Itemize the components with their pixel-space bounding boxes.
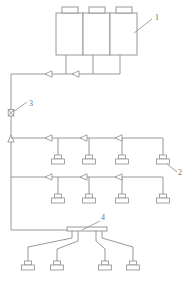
reference-label-3: 3	[29, 100, 33, 108]
flow-arrow-row2-3	[115, 174, 122, 180]
schematic-drawing	[0, 0, 190, 281]
nozzle-row2-item4	[157, 194, 170, 203]
nozzle-row1-item2	[83, 155, 96, 164]
flow-arrow-header-1	[45, 71, 52, 77]
riser-valve-upper	[8, 110, 14, 117]
leader-line-3	[13, 102, 27, 112]
storage-vessel-bank	[56, 7, 137, 55]
nozzle-row2-item1	[52, 194, 65, 203]
figure-canvas: 1 3 2 4	[0, 0, 190, 281]
vessel-2	[83, 7, 110, 55]
flow-arrow-row1-2	[80, 135, 87, 141]
flow-arrow-row1-3	[115, 135, 122, 141]
manifold-drop-2	[57, 231, 78, 261]
nozzle-bottom-item4	[127, 261, 140, 270]
vessel-1	[56, 7, 83, 55]
main-riser	[11, 74, 67, 230]
flow-arrow-row1-1	[45, 135, 52, 141]
flow-arrow-row2-2	[80, 174, 87, 180]
vessel-3	[110, 7, 137, 55]
flow-arrow-row2-1	[45, 174, 52, 180]
riser-valve-lower	[8, 135, 14, 142]
manifold-drop-4	[102, 231, 133, 261]
nozzle-row1-item3	[116, 155, 129, 164]
nozzle-bottom-item2	[51, 261, 64, 270]
flow-arrow-header-2	[72, 71, 79, 77]
vessel-header-pipe	[11, 55, 120, 74]
nozzle-row2-item2	[83, 194, 96, 203]
nozzle-row1-item1	[52, 155, 65, 164]
manifold-drop-3	[96, 231, 105, 261]
reference-label-4: 4	[101, 214, 105, 222]
nozzle-bottom-item3	[99, 261, 112, 270]
nozzle-row1-item4	[157, 155, 170, 164]
reference-label-1: 1	[155, 14, 159, 22]
reference-label-2: 2	[178, 169, 182, 177]
nozzle-bottom-item1	[22, 261, 35, 270]
leader-line-2	[167, 164, 177, 172]
nozzle-row2-item3	[116, 194, 129, 203]
